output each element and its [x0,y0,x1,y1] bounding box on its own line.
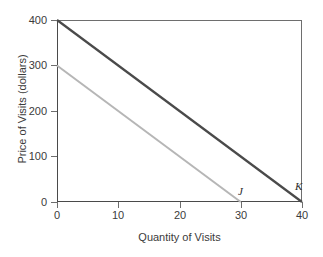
x-tick-label: 40 [282,210,322,221]
x-tick-mark [241,202,242,208]
curve-label-j: J [238,186,243,197]
series-line-k [57,20,302,202]
x-tick-mark [302,202,303,208]
y-axis-title: Price of Visits (dollars) [16,18,28,200]
y-tick-mark [51,20,57,21]
y-tick-mark [51,111,57,112]
x-tick-mark [118,202,119,208]
x-tick-label: 30 [221,210,261,221]
y-tick-mark [51,156,57,157]
curve-label-k: K [295,181,302,192]
x-tick-label: 0 [37,210,77,221]
series-line-j [57,66,241,203]
x-tick-mark [57,202,58,208]
x-tick-mark [180,202,181,208]
chart-data-layer [57,20,302,202]
y-tick-mark [51,65,57,66]
x-tick-label: 20 [160,210,200,221]
x-axis-title: Quantity of Visits [57,231,302,243]
chart-figure: 400 300 200 100 0 0 10 20 30 40 J K Quan… [0,0,323,257]
x-tick-label: 10 [98,210,138,221]
